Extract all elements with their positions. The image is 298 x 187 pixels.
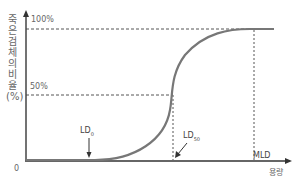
tick-50: 50%	[30, 82, 48, 91]
ld50-arrow	[178, 143, 187, 154]
x-axis-arrow-icon	[285, 158, 292, 164]
mld-label: MLD	[253, 151, 271, 160]
ld0-label: LD0	[80, 126, 94, 137]
tick-origin: 0	[14, 164, 19, 173]
ld0-arrowhead-icon	[87, 152, 92, 158]
ld50-label: LD50	[183, 131, 200, 142]
y-axis-arrow-icon	[23, 10, 29, 17]
y-axis-label: 죽은 검체의 비율 (%)	[6, 14, 18, 102]
tick-100: 100%	[31, 15, 54, 24]
x-axis-label: 용량	[269, 166, 283, 177]
